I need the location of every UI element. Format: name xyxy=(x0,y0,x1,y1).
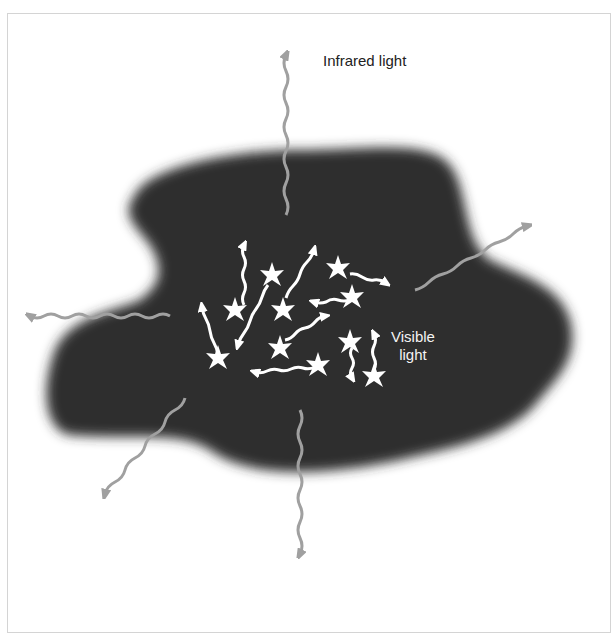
visible-light-label: Visible light xyxy=(391,328,435,364)
visible-label-line2: light xyxy=(391,346,435,364)
infrared-light-label: Infrared light xyxy=(323,52,406,69)
visible-label-line1: Visible xyxy=(391,328,435,346)
dust-cloud xyxy=(47,148,573,472)
